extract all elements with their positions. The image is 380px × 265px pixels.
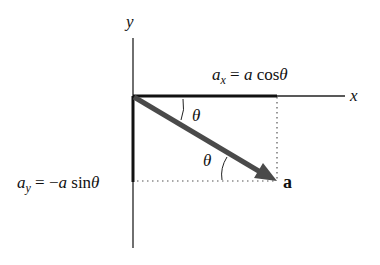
ay-rhs-fn: sin [67, 173, 92, 192]
ax-rhs-fn: cos [252, 65, 279, 84]
lower-theta-label: θ [203, 151, 211, 170]
ax-equation-label: ax = a cosθ [212, 65, 288, 87]
x-axis-label: x [349, 86, 358, 105]
vector-a-label: a [283, 172, 292, 192]
ay-eq: = − [31, 173, 59, 192]
ax-rhs-angle: θ [279, 65, 287, 84]
ay-lhs-main: a [17, 173, 26, 192]
ax-lhs-main: a [212, 65, 221, 84]
y-axis-label: y [124, 12, 134, 31]
ax-rhs-var: a [244, 65, 253, 84]
vector-components-diagram: y x ax = a cosθ ay = −a sinθ θ θ a [0, 0, 380, 265]
upper-angle-arc [181, 99, 184, 120]
ay-equation-label: ay = −a sinθ [17, 173, 99, 195]
ay-rhs-angle: θ [91, 173, 99, 192]
lower-angle-arc [222, 157, 227, 180]
ay-rhs-var: a [59, 173, 68, 192]
upper-theta-label: θ [192, 106, 200, 125]
ax-eq: = [226, 65, 244, 84]
